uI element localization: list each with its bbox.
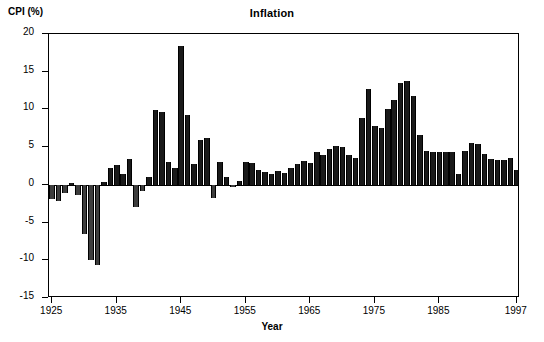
plot-area <box>49 34 518 296</box>
bar <box>75 185 81 195</box>
bar <box>314 152 320 185</box>
bar <box>282 173 288 185</box>
x-axis-label: Year <box>0 321 544 332</box>
x-tick-mark <box>180 297 181 303</box>
bar <box>140 185 146 191</box>
x-tick-label: 1975 <box>351 305 397 316</box>
bar <box>379 128 385 185</box>
x-tick-mark <box>374 297 375 303</box>
bar <box>308 163 314 185</box>
bar <box>495 160 501 185</box>
y-tick-mark <box>42 297 48 298</box>
bar <box>114 165 120 185</box>
bar <box>56 185 62 202</box>
bar <box>166 162 172 185</box>
bar <box>230 185 236 187</box>
bar <box>256 170 262 185</box>
bar <box>385 109 391 184</box>
bar <box>159 112 165 184</box>
y-tick-label: -5 <box>0 215 34 226</box>
bar <box>327 149 333 185</box>
y-tick-label: 10 <box>0 101 34 112</box>
x-tick-label: 1935 <box>93 305 139 316</box>
y-tick-label: 5 <box>0 139 34 150</box>
y-axis-label: CPI (%) <box>8 6 43 17</box>
bar <box>172 168 178 185</box>
x-tick-label: 1925 <box>28 305 74 316</box>
bar <box>243 162 249 185</box>
bar <box>224 177 230 185</box>
bar <box>101 182 107 185</box>
bar <box>482 154 488 185</box>
bar <box>288 168 294 185</box>
bar <box>249 163 255 185</box>
bar <box>95 185 101 265</box>
bar <box>301 161 307 184</box>
y-tick-label: -15 <box>0 290 34 301</box>
x-tick-label: 1997 <box>493 305 539 316</box>
bar <box>443 152 449 184</box>
bar <box>82 185 88 234</box>
bar <box>501 160 507 185</box>
bar <box>262 172 268 185</box>
x-tick-label: 1945 <box>157 305 203 316</box>
bar <box>269 174 275 185</box>
bar <box>430 152 436 185</box>
bar <box>133 185 139 208</box>
bar <box>333 146 339 185</box>
bar <box>185 115 191 184</box>
bar <box>295 164 301 184</box>
x-tick-mark <box>245 297 246 303</box>
bar <box>508 158 514 184</box>
bar <box>391 100 397 184</box>
bar <box>346 155 352 185</box>
bar <box>211 185 217 199</box>
y-tick-label: -10 <box>0 252 34 263</box>
bar <box>204 138 210 185</box>
bar <box>198 140 204 185</box>
bar <box>178 46 184 185</box>
inflation-chart-figure: Inflation CPI (%) Year 20151050-5-10-15 … <box>0 0 544 342</box>
bar <box>417 135 423 185</box>
bar <box>146 177 152 185</box>
bar <box>275 171 281 185</box>
bar <box>359 118 365 184</box>
bar <box>424 151 430 185</box>
bar <box>449 152 455 184</box>
bar <box>217 162 223 185</box>
bar <box>120 174 126 185</box>
bar <box>353 158 359 184</box>
bar <box>108 168 114 185</box>
bar <box>404 81 410 185</box>
bar <box>366 89 372 185</box>
x-tick-mark <box>116 297 117 303</box>
bar <box>469 143 475 184</box>
x-tick-mark <box>309 297 310 303</box>
bar <box>320 155 326 184</box>
bar <box>62 185 68 193</box>
bar <box>514 170 518 185</box>
x-tick-label: 1965 <box>286 305 332 316</box>
plot-frame <box>48 33 519 297</box>
bar <box>127 159 133 185</box>
x-tick-mark <box>51 297 52 303</box>
bar <box>88 185 94 260</box>
x-tick-mark <box>438 297 439 303</box>
bar <box>153 110 159 185</box>
bar <box>340 147 346 185</box>
x-tick-label: 1985 <box>415 305 461 316</box>
bar <box>437 152 443 185</box>
bar <box>475 144 481 185</box>
bar <box>411 96 417 185</box>
bar <box>398 83 404 185</box>
y-tick-label: 15 <box>0 64 34 75</box>
chart-title: Inflation <box>0 7 544 19</box>
x-tick-mark <box>516 297 517 303</box>
bar <box>49 185 55 199</box>
bar <box>191 164 197 184</box>
bar <box>237 181 243 185</box>
y-tick-label: 0 <box>0 177 34 188</box>
bar <box>462 151 468 185</box>
bar <box>456 174 462 185</box>
x-tick-label: 1955 <box>222 305 268 316</box>
